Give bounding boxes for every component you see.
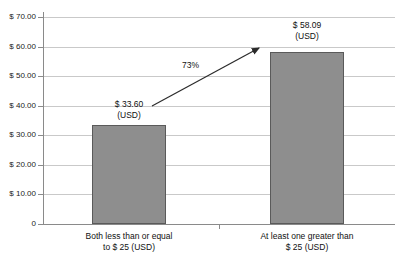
y-axis-label-20-wrap: $ 20.00 [0,161,36,169]
y-axis-tick-30 [38,135,43,136]
y-axis-label-0-wrap: 0 [0,220,36,228]
x-axis-category-label-1: Both less than or equal to $ 25 (USD) [59,231,199,253]
y-axis-tick-70 [38,17,43,18]
y-axis-line [43,12,44,224]
percent-increase-label: 73% [181,61,200,70]
bar-both-less-than-or-equal [92,125,166,224]
bar-value-label-2: $ 58.09 (USD) [270,20,344,42]
x-axis-category-line-1b: to $ 25 (USD) [59,242,199,253]
y-axis-label-70-wrap: $ 70.00 [0,13,36,21]
y-axis-label-10: $ 10.00 [0,190,36,198]
bar-value-amount-1: $ 33.60 [92,99,166,110]
bar-value-currency-2: (USD) [270,31,344,42]
bar-chart: $ 70.00 $ 60.00 $ 50.00 $ 40.00 $ 30.00 … [0,0,399,256]
bar-value-amount-2: $ 58.09 [270,20,344,31]
y-axis-label-40: $ 40.00 [0,102,36,110]
y-axis-tick-20 [38,165,43,166]
y-axis-label-50-wrap: $ 50.00 [0,72,36,80]
bar-value-label-1: $ 33.60 (USD) [92,99,166,121]
y-axis-tick-40 [38,106,43,107]
y-axis-label-60-wrap: $ 60.00 [0,43,36,51]
y-axis-label-50: $ 50.00 [0,72,36,80]
y-axis-label-0: 0 [0,220,36,228]
bar-at-least-one-greater-than [270,52,344,224]
x-axis-tick-mid [219,224,220,229]
x-axis-category-label-2: At least one greater than $ 25 (USD) [237,231,377,253]
y-axis-tick-10 [38,194,43,195]
bar-value-currency-1: (USD) [92,110,166,121]
gridline-70 [43,17,395,18]
y-axis-tick-50 [38,76,43,77]
y-axis-label-20: $ 20.00 [0,161,36,169]
y-axis-label-30-wrap: $ 30.00 [0,131,36,139]
x-axis-category-line-2b: $ 25 (USD) [237,242,377,253]
x-axis-category-line-1a: Both less than or equal [59,231,199,242]
x-axis-category-line-2a: At least one greater than [237,231,377,242]
y-axis-tick-0 [38,224,43,225]
y-axis-label-40-wrap: $ 40.00 [0,102,36,110]
y-axis-tick-60 [38,47,43,48]
gridline-60 [43,47,395,48]
y-axis-label-10-wrap: $ 10.00 [0,190,36,198]
y-axis-label-60: $ 60.00 [0,43,36,51]
y-axis-label-70: $ 70.00 [0,13,36,21]
y-axis-label-30: $ 30.00 [0,131,36,139]
